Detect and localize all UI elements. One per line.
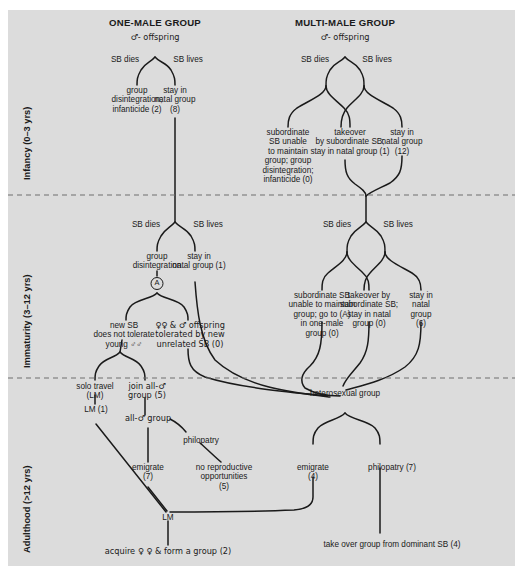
edge-mm-imm-lives-left: [364, 252, 385, 290]
edge-allmale-to-philopatry: [170, 419, 186, 432]
edge-join-allmale: [120, 352, 145, 380]
node-take-over-group: take over group from dominant SB (4): [324, 540, 461, 549]
connector-layer: [0, 0, 523, 576]
node-om-imm-tolerated: ♀♀ & ♂ offspringtolerated by newunrelate…: [155, 321, 225, 349]
branch-label-om-infancy-lives: SB lives: [173, 55, 203, 64]
node-om-imm-newsb: new SBdoes not tolerateyoung ♂♂: [94, 321, 155, 349]
node-join-all-male-group: join all-♂group (5): [128, 382, 166, 401]
edge-om-root-lives: [155, 57, 175, 85]
edge-om-root-dies: [137, 57, 155, 85]
node-mm-imm-takeover: takeover bysubordinate SB;stay in natalg…: [340, 291, 398, 329]
edge-mm-lives-left: [341, 86, 364, 127]
edge-mm-imm-dies-right: [347, 252, 369, 290]
node-emigrate-all-male: emigrate(7): [132, 463, 164, 482]
edge-solo-travel: [95, 352, 120, 380]
node-philopatry-heterosexual: philopatry (7): [368, 463, 416, 472]
branch-label-mm-imm-lives: SB lives: [383, 220, 413, 229]
node-lm-1: LM (1): [84, 405, 108, 414]
edge-mm-dies-right: [326, 86, 350, 127]
edge-om-imm-lives: [175, 222, 195, 251]
node-philopatry-all-male: philopatry: [183, 436, 219, 445]
branch-label-om-infancy-dies: SB dies: [111, 55, 139, 64]
node-om-infancy-lives: stay innatal group(8): [155, 86, 196, 114]
node-lm-pool: LM: [162, 513, 173, 522]
edge-mm-dies-left: [288, 86, 326, 127]
edge-mm-takeover-down: [345, 160, 366, 196]
branch-label-mm-imm-dies: SB dies: [323, 220, 351, 229]
node-acquire-females: acquire ♀ ♀ & form a group (2): [105, 547, 231, 556]
column-title-multi-male: MULTI-MALE GROUP: [295, 18, 395, 27]
edge-het-emigrate: [313, 413, 345, 444]
node-om-imm-lives: stay innatal group (1): [172, 252, 225, 271]
node-heterosexual-group: heterosexual group: [310, 389, 380, 398]
marker-a-one-male: A: [151, 277, 164, 290]
edge-A-newsb: [126, 293, 157, 320]
edge-mm-imm-dies-left: [322, 252, 347, 290]
column-root-multi-male: ♂- offspring: [320, 33, 369, 42]
edge-mm-stay-to-het: [346, 322, 421, 390]
branch-label-om-imm-dies: SB dies: [132, 220, 160, 229]
stage-label-immaturity: Immaturity (3–12 yrs): [22, 274, 32, 368]
stage-label-infancy: Infancy (0–3 yrs): [22, 107, 32, 180]
node-no-reproductive-opportunities: no reproductiveopportunities(5): [196, 463, 252, 491]
stage-label-adulthood: Adulthood (>12 yrs): [22, 465, 32, 553]
edge-het-philopatry: [345, 413, 380, 444]
node-mm-imm-stay: stay innatalgroup(6): [409, 291, 433, 329]
branch-label-mm-infancy-lives: SB lives: [362, 55, 392, 64]
edge-A-tolerated: [157, 293, 188, 320]
node-mm-infancy-stay: stay innatal group(12): [382, 128, 423, 156]
figure-canvas: Infancy (0–3 yrs) Immaturity (3–12 yrs) …: [0, 0, 523, 576]
branch-label-om-imm-lives: SB lives: [193, 220, 223, 229]
edge-philopatry-to-norepro: [200, 443, 221, 462]
column-title-one-male: ONE-MALE GROUP: [109, 18, 201, 27]
node-emigrate-heterosexual: emigrate(4): [297, 463, 329, 482]
edge-mm-stay-down: [366, 156, 402, 196]
edge-mm-imm-lives: [366, 222, 385, 252]
edge-mm-root-lives: [345, 57, 364, 86]
branch-label-mm-infancy-dies: SB dies: [301, 55, 329, 64]
column-root-one-male: ♂- offspring: [130, 33, 179, 42]
node-solo-travel: solo travel(LM): [76, 382, 113, 401]
edge-mm-lives-right: [364, 86, 402, 127]
edge-mm-imm-lives-right: [385, 252, 421, 290]
node-mm-infancy-takeover: takeoverby subordinate SB;stay in natal …: [310, 128, 389, 156]
edge-emigrate7-to-pool: [148, 487, 167, 511]
node-mm-infancy-dies: subordinateSB unableto maintaingroup; gr…: [263, 128, 314, 184]
node-all-male-group: all-♂ group: [125, 414, 171, 423]
